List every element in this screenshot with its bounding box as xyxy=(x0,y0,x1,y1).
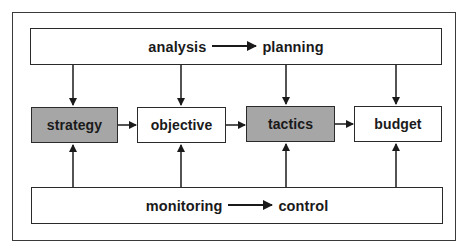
connector-arrows xyxy=(0,0,470,252)
